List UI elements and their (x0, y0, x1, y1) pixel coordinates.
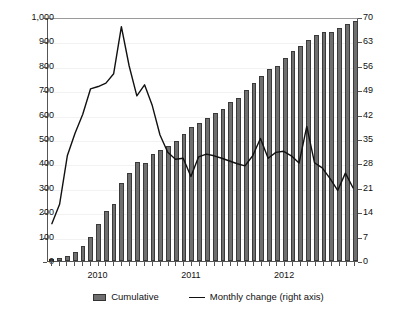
x-axis-tick-mark (292, 262, 293, 266)
line-series-monthly-change (48, 19, 357, 261)
y-axis-tick-label-right: 42 (363, 111, 373, 120)
x-axis-tick-mark (98, 262, 99, 266)
y-axis-tick-mark-right (358, 91, 362, 92)
chart-legend: Cumulative Monthly change (right axis) (0, 292, 417, 302)
legend-item-monthly-change: Monthly change (right axis) (189, 292, 324, 302)
x-axis-tick-mark (144, 262, 145, 266)
y-axis-tick-label-right: 56 (363, 62, 373, 71)
x-axis-tick-mark (300, 262, 301, 266)
x-axis-tick-mark (152, 262, 153, 266)
x-axis-tick-mark (354, 262, 355, 266)
plot-area (47, 18, 358, 262)
x-axis-tick-label: 2011 (181, 271, 200, 280)
y-axis-tick-mark-left (43, 91, 47, 92)
y-axis-tick-mark-right (358, 18, 362, 19)
x-axis-tick-mark (90, 262, 91, 266)
x-axis-tick-mark (82, 262, 83, 266)
y-axis-tick-label-right: 28 (363, 159, 373, 168)
x-axis-tick-mark (339, 262, 340, 266)
y-axis-tick-mark-left (43, 18, 47, 19)
x-axis-tick-mark (261, 262, 262, 266)
x-axis-tick-mark (136, 262, 137, 266)
x-axis-tick-mark (66, 262, 67, 266)
y-axis-tick-label-right: 49 (363, 86, 373, 95)
y-axis-tick-mark-left (43, 189, 47, 190)
x-axis-tick-mark (191, 262, 192, 266)
y-axis-tick-mark-left (43, 116, 47, 117)
x-axis-tick-mark (168, 262, 169, 266)
x-axis-tick-mark (346, 262, 347, 266)
legend-item-cumulative: Cumulative (93, 292, 159, 302)
x-axis-tick-mark (214, 262, 215, 266)
x-axis-tick-mark (160, 262, 161, 266)
x-axis-tick-mark (59, 262, 60, 266)
x-axis-tick-mark (269, 262, 270, 266)
x-axis-tick-label: 2012 (274, 271, 294, 280)
y-axis-tick-mark-left (43, 67, 47, 68)
y-axis-tick-label-right: 0 (363, 257, 368, 266)
legend-label-cumulative: Cumulative (111, 292, 159, 302)
x-axis-tick-mark (331, 262, 332, 266)
x-axis-tick-mark (230, 262, 231, 266)
x-axis-tick-mark (206, 262, 207, 266)
x-axis-tick-mark (74, 262, 75, 266)
x-axis-tick-mark (315, 262, 316, 266)
x-axis-tick-mark (222, 262, 223, 266)
x-axis-tick-mark (307, 262, 308, 266)
y-axis-tick-mark-right (358, 140, 362, 141)
x-axis-tick-mark (237, 262, 238, 266)
y-axis-tick-mark-left (43, 213, 47, 214)
x-axis-tick-mark (199, 262, 200, 266)
x-axis-tick-mark (129, 262, 130, 266)
legend-label-monthly-change: Monthly change (right axis) (210, 292, 324, 302)
x-axis-tick-mark (253, 262, 254, 266)
y-axis-tick-label-right: 21 (363, 184, 373, 193)
y-axis-tick-mark-left (43, 42, 47, 43)
y-axis-tick-mark-right (358, 262, 362, 263)
x-axis-tick-mark (183, 262, 184, 266)
y-axis-tick-mark-right (358, 238, 362, 239)
y-axis-tick-label-right: 14 (363, 208, 373, 217)
x-axis-tick-mark (284, 262, 285, 266)
x-axis-tick-mark (121, 262, 122, 266)
chart-figure: 01002003004005006007008009001,0000714212… (0, 0, 417, 319)
y-axis-tick-mark-left (43, 262, 47, 263)
x-axis-tick-mark (323, 262, 324, 266)
y-axis-tick-mark-right (358, 189, 362, 190)
x-axis-tick-mark (276, 262, 277, 266)
y-axis-tick-mark-right (358, 213, 362, 214)
y-axis-tick-label-right: 35 (363, 135, 373, 144)
y-axis-tick-label-right: 63 (363, 37, 373, 46)
y-axis-tick-label-right: 7 (363, 233, 368, 242)
y-axis-tick-mark-right (358, 116, 362, 117)
y-axis-tick-mark-left (43, 238, 47, 239)
y-axis-tick-mark-right (358, 67, 362, 68)
x-axis-tick-mark (245, 262, 246, 266)
line-swatch-icon (189, 297, 205, 298)
y-axis-tick-mark-right (358, 42, 362, 43)
bar-swatch-icon (93, 294, 106, 301)
y-axis-tick-mark-right (358, 164, 362, 165)
y-axis-tick-label-right: 70 (363, 13, 373, 22)
y-axis-tick-mark-left (43, 140, 47, 141)
x-axis-tick-mark (175, 262, 176, 266)
x-axis-tick-mark (113, 262, 114, 266)
y-axis-tick-mark-left (43, 164, 47, 165)
x-axis-tick-label: 2010 (88, 271, 108, 280)
x-axis-tick-mark (105, 262, 106, 266)
x-axis-tick-mark (51, 262, 52, 266)
